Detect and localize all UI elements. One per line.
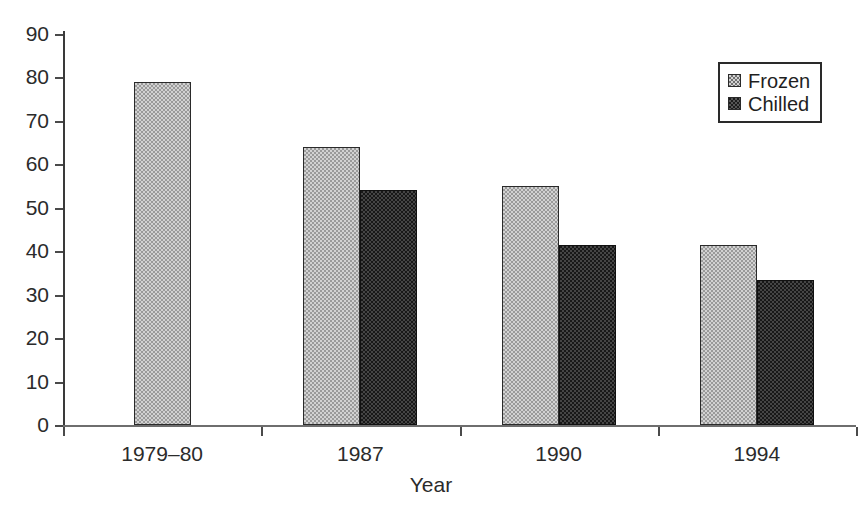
x-tick-mark (856, 427, 858, 436)
y-tick-mark (55, 208, 63, 210)
bar-chilled-1987[interactable] (360, 190, 417, 425)
bar-chilled-1990[interactable] (559, 245, 616, 425)
x-category-label: 1979–80 (63, 441, 261, 467)
bar-chart: 0102030405060708090 1979–80198719901994 … (0, 0, 862, 508)
bar-frozen-1979-80[interactable] (134, 82, 191, 425)
legend-label-chilled: Chilled (748, 93, 809, 115)
y-tick-label: 70 (26, 108, 49, 134)
legend-item-chilled[interactable]: Chilled (728, 92, 810, 115)
bar-frozen-1990[interactable] (502, 186, 559, 425)
y-tick-mark (55, 77, 63, 79)
y-tick-label: 30 (26, 282, 49, 308)
legend-label-frozen: Frozen (748, 70, 810, 92)
y-tick-label: 0 (37, 412, 49, 438)
y-tick-label: 40 (26, 238, 49, 264)
bar-frozen-1987[interactable] (303, 147, 360, 425)
frozen-swatch-icon (728, 74, 741, 87)
y-tick-mark (55, 34, 63, 36)
bar-chilled-1994[interactable] (757, 280, 814, 425)
x-tick-mark (63, 427, 65, 436)
y-tick-mark (55, 338, 63, 340)
y-tick-mark (55, 425, 63, 427)
y-tick-label: 90 (26, 21, 49, 47)
x-category-label: 1994 (658, 441, 856, 467)
x-tick-mark (460, 427, 462, 436)
y-tick-label: 10 (26, 369, 49, 395)
legend: Frozen Chilled (718, 62, 822, 123)
y-tick-mark (55, 382, 63, 384)
legend-item-frozen[interactable]: Frozen (728, 69, 810, 92)
y-tick-mark (55, 121, 63, 123)
y-tick-label: 20 (26, 325, 49, 351)
x-category-label: 1987 (261, 441, 459, 467)
x-tick-mark (261, 427, 263, 436)
chilled-swatch-icon (728, 97, 741, 110)
y-tick-mark (55, 251, 63, 253)
x-tick-mark (658, 427, 660, 436)
y-tick-label: 80 (26, 64, 49, 90)
x-category-label: 1990 (460, 441, 658, 467)
bar-frozen-1994[interactable] (700, 245, 757, 425)
y-tick-label: 50 (26, 195, 49, 221)
x-axis-title: Year (0, 472, 862, 498)
y-tick-label: 60 (26, 151, 49, 177)
y-tick-mark (55, 295, 63, 297)
y-tick-mark (55, 164, 63, 166)
